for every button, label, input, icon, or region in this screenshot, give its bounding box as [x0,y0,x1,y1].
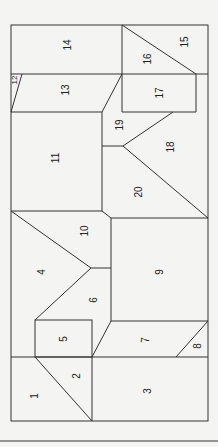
line-13-19 [102,74,122,112]
line-4-10 [11,211,91,268]
label-16: 16 [142,53,153,65]
label-15: 15 [179,36,190,48]
label-3: 3 [142,388,153,394]
label-2: 2 [71,373,82,379]
line-1-2 [35,357,92,421]
label-11: 11 [50,152,61,163]
label-19: 19 [114,119,125,131]
label-6: 6 [88,297,99,303]
line-6-7 [92,321,111,357]
label-17: 17 [154,87,165,99]
line-4-6 [35,268,91,320]
label-7: 7 [140,337,151,343]
label-18: 18 [165,141,176,153]
line-19-18 [123,112,173,146]
label-9: 9 [154,269,165,275]
label-12: 12 [10,75,19,84]
diagram-lines [11,25,208,421]
line-20-18 [123,146,208,218]
label-1: 1 [29,393,40,399]
outer-boundary [11,25,208,421]
label-8: 8 [192,343,203,349]
line-16-15 [122,25,196,74]
label-13: 13 [60,84,71,96]
line-7-8 [176,321,208,357]
label-14: 14 [62,39,73,51]
label-5: 5 [58,336,69,342]
label-10: 10 [79,225,90,237]
label-4: 4 [36,269,47,275]
floor-plan-diagram: 1 2 3 4 5 6 7 8 9 10 11 12 13 14 15 16 1… [0,0,218,447]
region-labels: 1 2 3 4 5 6 7 8 9 10 11 12 13 14 15 16 1… [10,36,203,399]
line-20-10-corner [102,211,111,218]
label-20: 20 [133,186,144,198]
